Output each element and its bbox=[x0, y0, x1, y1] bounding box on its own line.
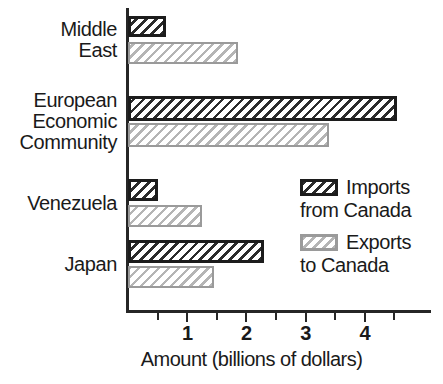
x-axis-tick-label: 4 bbox=[359, 322, 370, 345]
category-label: Japan bbox=[65, 254, 118, 275]
legend-label-imports-line1: Imports bbox=[346, 176, 410, 199]
legend-label-exports-line1: Exports bbox=[346, 231, 411, 254]
chart-legend: Imports from Canada Exports to Canada bbox=[300, 176, 443, 286]
x-axis-title: Amount (billions of dollars) bbox=[0, 348, 443, 371]
bar-imports bbox=[128, 96, 397, 121]
category-label: Venezuela bbox=[27, 193, 117, 214]
x-axis-minor-tick bbox=[393, 313, 395, 320]
legend-entry-imports: Imports from Canada bbox=[300, 176, 443, 222]
x-axis-minor-tick bbox=[216, 313, 218, 320]
legend-entry-exports: Exports to Canada bbox=[300, 231, 443, 277]
x-axis-major-tick bbox=[186, 313, 188, 322]
bar-imports bbox=[128, 16, 166, 37]
x-axis-tick-label: 3 bbox=[300, 322, 311, 345]
x-axis-major-tick bbox=[245, 313, 247, 322]
legend-row-imports: Imports bbox=[300, 176, 443, 199]
x-axis-major-tick bbox=[364, 313, 366, 322]
category-label: European Economic Community bbox=[19, 90, 117, 153]
legend-label-exports-line2: to Canada bbox=[300, 254, 443, 277]
x-axis-minor-tick bbox=[275, 313, 277, 320]
x-axis-minor-tick bbox=[157, 313, 159, 320]
legend-row-exports: Exports bbox=[300, 231, 443, 254]
bar-exports bbox=[128, 42, 238, 64]
x-axis-tick-label: 2 bbox=[241, 322, 252, 345]
bar-exports bbox=[128, 205, 202, 227]
x-axis-minor-tick bbox=[334, 313, 336, 320]
bar-imports bbox=[128, 240, 264, 263]
legend-label-imports-line2: from Canada bbox=[300, 199, 443, 222]
legend-swatch-exports-icon bbox=[300, 234, 338, 251]
category-label: Middle East bbox=[60, 19, 117, 61]
legend-swatch-imports-icon bbox=[300, 179, 338, 196]
x-axis-major-tick bbox=[305, 313, 307, 322]
bar-exports bbox=[128, 266, 214, 288]
bar-chart: 1234 Middle EastEuropean Economic Commun… bbox=[0, 0, 443, 384]
x-axis-tick-label: 1 bbox=[182, 322, 193, 345]
bar-imports bbox=[128, 179, 158, 201]
bar-exports bbox=[128, 123, 329, 147]
x-axis-line bbox=[126, 310, 431, 313]
